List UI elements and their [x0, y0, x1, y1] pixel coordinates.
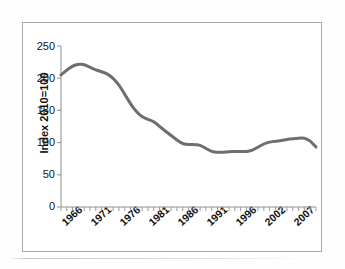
- plot-area: [23, 23, 323, 253]
- data-series-line: [61, 64, 316, 152]
- y-tick-marks: [57, 46, 61, 207]
- chart-frame: Index 2010=100 250 200 150 100 50 0 1966…: [22, 22, 322, 252]
- scan-artifact-line: [8, 258, 308, 259]
- x-tick-marks: [61, 207, 316, 211]
